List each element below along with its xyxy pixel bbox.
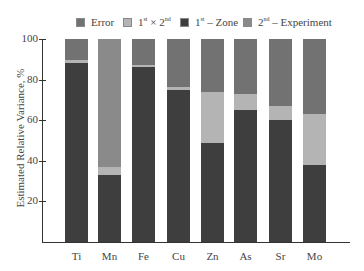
bar-segment-error xyxy=(303,39,326,114)
bar-segment-error xyxy=(234,39,257,94)
x-tick-label: Ti xyxy=(62,250,92,262)
bar-segment-1st-2nd xyxy=(167,87,190,90)
y-tick-mark xyxy=(39,161,46,162)
bar-segment-1st-2nd xyxy=(132,65,155,67)
x-tick-label: Zn xyxy=(198,250,228,262)
bar-ti xyxy=(65,0,88,271)
bar-segment-2nd-experiment xyxy=(98,39,121,167)
y-tick-mark xyxy=(39,201,46,202)
bar-segment-1st-2nd xyxy=(201,92,224,143)
bar-segment-1st-zone xyxy=(201,143,224,242)
y-tick-mark xyxy=(39,39,46,40)
bar-segment-error xyxy=(201,39,224,92)
bar-segment-error xyxy=(132,39,155,65)
y-tick-label: 80 xyxy=(14,73,38,85)
bar-segment-1st-2nd xyxy=(234,94,257,110)
x-tick-label: As xyxy=(231,250,261,262)
y-tick-label: 40 xyxy=(14,154,38,166)
y-tick-label: 100 xyxy=(14,32,38,44)
bar-segment-1st-zone xyxy=(303,165,326,242)
y-axis-line xyxy=(42,39,43,242)
bar-segment-error xyxy=(167,39,190,87)
bar-segment-1st-zone xyxy=(98,175,121,242)
bar-segment-1st-zone xyxy=(234,110,257,242)
stacked-bar-chart: Estimated Relative Variance, % 204060801… xyxy=(0,0,364,271)
bar-mn xyxy=(98,0,121,271)
bar-cu xyxy=(167,0,190,271)
bar-segment-error xyxy=(269,39,292,106)
bar-segment-1st-zone xyxy=(269,120,292,242)
x-tick-label: Cu xyxy=(164,250,194,262)
x-tick-label: Mo xyxy=(300,250,330,262)
y-tick-label: 60 xyxy=(14,113,38,125)
bar-as xyxy=(234,0,257,271)
y-tick-mark xyxy=(39,80,46,81)
bar-segment-1st-2nd xyxy=(65,60,88,63)
x-tick-label: Mn xyxy=(95,250,125,262)
bar-sr xyxy=(269,0,292,271)
bar-mo xyxy=(303,0,326,271)
y-tick-mark xyxy=(39,120,46,121)
bar-segment-1st-zone xyxy=(132,67,155,242)
bar-fe xyxy=(132,0,155,271)
x-tick-label: Fe xyxy=(129,250,159,262)
bar-segment-1st-zone xyxy=(65,63,88,242)
bar-segment-1st-2nd xyxy=(303,114,326,165)
bar-segment-1st-2nd xyxy=(98,167,121,175)
bar-segment-error xyxy=(65,39,88,60)
y-tick-label: 20 xyxy=(14,194,38,206)
bar-segment-1st-zone xyxy=(167,90,190,242)
bar-segment-1st-2nd xyxy=(269,106,292,120)
bar-zn xyxy=(201,0,224,271)
x-tick-label: Sr xyxy=(266,250,296,262)
